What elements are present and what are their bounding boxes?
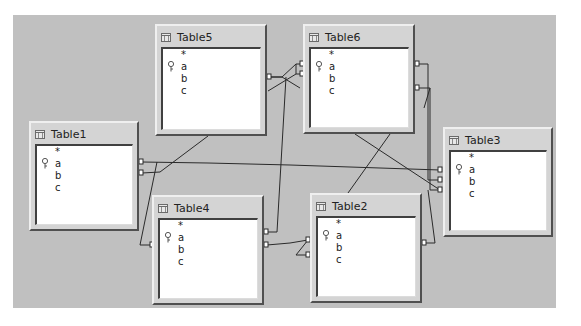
column-star[interactable]: *	[336, 218, 341, 230]
primary-key-icon	[41, 158, 49, 170]
primary-key-icon	[455, 164, 463, 176]
column-c[interactable]: c	[55, 182, 61, 194]
column-a[interactable]: a	[178, 232, 184, 244]
table-icon	[449, 136, 459, 145]
column-a[interactable]: a	[329, 61, 335, 73]
column-c[interactable]: c	[178, 256, 184, 268]
table5-header[interactable]: Table5	[161, 29, 212, 45]
column-star[interactable]: *	[329, 49, 334, 61]
table4-box[interactable]: Table4 * a b c	[152, 195, 264, 305]
column-a[interactable]: a	[181, 61, 187, 73]
table5-title: Table5	[177, 31, 212, 44]
table-icon	[35, 130, 45, 139]
table2-title: Table2	[332, 200, 367, 213]
table3-box[interactable]: Table3 * a b c	[443, 127, 553, 237]
table6-columns: * a b c	[309, 47, 409, 128]
column-star[interactable]: *	[178, 220, 183, 232]
table-icon	[316, 202, 326, 211]
column-b[interactable]: b	[178, 244, 184, 256]
table5-columns: * a b c	[161, 47, 261, 130]
column-star[interactable]: *	[55, 146, 60, 158]
table-icon	[309, 33, 319, 42]
table5-box[interactable]: Table5 * a b c	[155, 24, 267, 136]
table6-title: Table6	[325, 31, 360, 44]
table4-title: Table4	[174, 202, 209, 215]
primary-key-icon	[315, 61, 323, 73]
table1-header[interactable]: Table1	[35, 126, 86, 142]
table-icon	[161, 33, 171, 42]
column-b[interactable]: b	[181, 73, 187, 85]
column-a[interactable]: a	[336, 230, 342, 242]
primary-key-icon	[322, 230, 330, 242]
table3-columns: * a b c	[449, 150, 547, 231]
table3-title: Table3	[465, 134, 500, 147]
table1-columns: * a b c	[35, 144, 133, 225]
column-star[interactable]: *	[469, 152, 474, 164]
table1-box[interactable]: Table1 * a b c	[29, 121, 139, 231]
column-b[interactable]: b	[329, 73, 335, 85]
table4-header[interactable]: Table4	[158, 200, 209, 216]
column-c[interactable]: c	[469, 188, 475, 200]
column-a[interactable]: a	[469, 164, 475, 176]
column-c[interactable]: c	[181, 85, 187, 97]
table1-title: Table1	[51, 128, 86, 141]
table6-header[interactable]: Table6	[309, 29, 360, 45]
column-b[interactable]: b	[469, 176, 475, 188]
table3-header[interactable]: Table3	[449, 132, 500, 148]
column-c[interactable]: c	[336, 254, 342, 266]
column-c[interactable]: c	[329, 85, 335, 97]
column-b[interactable]: b	[336, 242, 342, 254]
primary-key-icon	[164, 232, 172, 244]
column-a[interactable]: a	[55, 158, 61, 170]
primary-key-icon	[167, 61, 175, 73]
table2-columns: * a b c	[316, 216, 416, 297]
table6-box[interactable]: Table6 * a b c	[303, 24, 415, 134]
column-b[interactable]: b	[55, 170, 61, 182]
table-icon	[158, 204, 168, 213]
table2-header[interactable]: Table2	[316, 198, 367, 214]
table4-columns: * a b c	[158, 218, 258, 299]
table2-box[interactable]: Table2 * a b c	[310, 193, 422, 303]
column-star[interactable]: *	[181, 49, 186, 61]
